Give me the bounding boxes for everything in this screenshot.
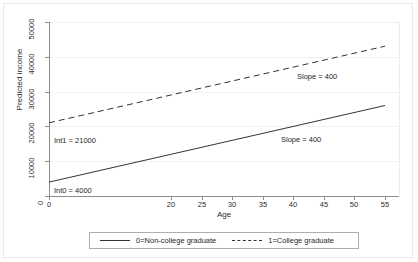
y-tick-10000 <box>45 161 49 162</box>
annotation-slope-college: Slope = 400 <box>297 72 337 81</box>
x-tick-label-25: 25 <box>187 200 217 209</box>
annotation-int1: Int1 = 21000 <box>54 136 96 145</box>
x-tick-label-55: 55 <box>370 200 400 209</box>
y-tick-label-text: 20000 <box>28 123 38 144</box>
legend-label-college: 1=College graduate <box>268 236 334 245</box>
x-tick-label-45: 45 <box>309 200 339 209</box>
x-axis-title: Age <box>49 210 399 219</box>
x-tick-label-30: 30 <box>217 200 247 209</box>
gridline-40000 <box>49 57 399 58</box>
y-tick-50000 <box>45 22 49 23</box>
y-tick-label-text: 10000 <box>28 158 38 179</box>
gridline-30000 <box>49 92 399 93</box>
y-tick-label-50000: 50000 <box>0 17 43 27</box>
plot-area <box>49 22 399 196</box>
y-tick-label-text: 30000 <box>28 89 38 110</box>
legend-key-dashed-icon <box>232 240 262 242</box>
legend-key-solid-icon <box>100 240 130 242</box>
chart-legend: 0=Non-college graduate 1=College graduat… <box>89 232 359 249</box>
y-tick-label-text: 40000 <box>28 54 38 75</box>
x-tick-label-35: 35 <box>248 200 278 209</box>
legend-entry-noncollege: 0=Non-college graduate <box>100 233 216 248</box>
x-tick-label-20: 20 <box>156 200 186 209</box>
annotation-int0: Int0 = 4000 <box>54 186 92 195</box>
gridline-50000 <box>49 22 399 23</box>
chart-figure: 50000 40000 30000 20000 10000 0 0 20 25 … <box>0 0 418 262</box>
plot-border-right <box>399 22 400 196</box>
y-tick-label-text: 50000 <box>28 19 38 40</box>
x-tick-label-50: 50 <box>339 200 369 209</box>
legend-entry-college: 1=College graduate <box>232 233 334 248</box>
x-axis-line <box>49 196 399 197</box>
y-axis-line <box>49 22 50 197</box>
annotation-slope-noncollege: Slope = 400 <box>281 135 321 144</box>
y-tick-20000 <box>45 126 49 127</box>
gridline-20000 <box>49 126 399 127</box>
y-tick-30000 <box>45 92 49 93</box>
x-tick-label-0: 0 <box>34 200 64 209</box>
y-tick-40000 <box>45 57 49 58</box>
y-axis-title: Predicted income <box>15 30 24 130</box>
x-tick-label-40: 40 <box>278 200 308 209</box>
y-tick-label-10000: 10000 <box>0 156 43 166</box>
legend-label-noncollege: 0=Non-college graduate <box>136 236 216 245</box>
gridline-10000 <box>49 161 399 162</box>
